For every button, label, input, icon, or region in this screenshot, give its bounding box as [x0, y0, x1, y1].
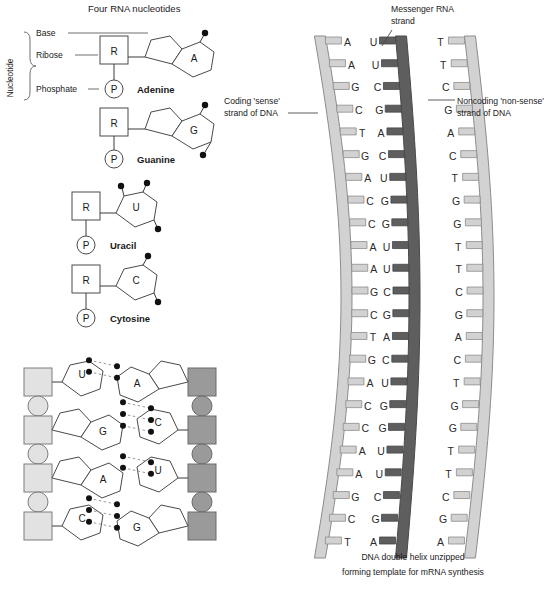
coding-strand-tooth	[346, 401, 362, 408]
helix-row: AUT	[325, 36, 464, 48]
nucleotide-name: Cytosine	[110, 313, 150, 324]
base-pair-row: AU	[24, 453, 216, 512]
phosphate-glyph: P	[83, 313, 90, 324]
substituent-dot-1	[202, 102, 208, 108]
noncoding-strand-tooth	[465, 355, 481, 362]
left-sugar-square	[24, 368, 52, 396]
noncoding-base-letter: T	[445, 468, 452, 480]
dna-helix-panel: AUTAUTGCCCGGTAAGCCAUTCGGCGGAUTAUTGCCCGGT…	[285, 0, 546, 589]
noncoding-base-letter: C	[442, 81, 450, 93]
noncoding-strand-tooth	[459, 446, 475, 453]
coding-base-letter: A	[370, 263, 377, 275]
left-sugar-square	[24, 512, 52, 540]
noncoding-strand-tooth	[467, 287, 483, 294]
mrna-base-letter: G	[371, 513, 379, 525]
coding-strand-tooth	[348, 378, 364, 385]
nucleotide-adenine: R P A Adenine	[100, 30, 214, 98]
mrna-strand-tooth	[393, 287, 409, 294]
coding-strand-tooth	[329, 514, 345, 521]
noncoding-base-letter: T	[437, 36, 444, 48]
noncoding-base-letter: C	[455, 286, 463, 298]
coding-base-letter: A	[359, 445, 366, 457]
substituent-bond	[200, 35, 204, 42]
coding-strand-tooth	[346, 173, 362, 180]
noncoding-base-letter: C	[454, 354, 462, 366]
noncoding-strand-tooth	[464, 378, 480, 385]
noncoding-strand-backbone	[464, 36, 494, 558]
noncoding-base-letter: G	[439, 513, 447, 525]
h-bond-dot-right	[148, 417, 154, 423]
base-pair-row: GC	[24, 399, 216, 464]
noncoding-strand-tooth	[454, 492, 470, 499]
left-base-letter: C	[78, 513, 85, 524]
mrna-base-letter: C	[374, 81, 382, 93]
base-pair-row: CG	[24, 495, 216, 546]
noncoding-base-letter: T	[447, 445, 454, 457]
coding-strand-tooth	[352, 287, 368, 294]
coding-strand-tooth	[340, 446, 356, 453]
legend-phosphate-label: Phosphate	[36, 84, 77, 94]
coding-strand-tooth	[352, 264, 368, 271]
h-bond-dot-left	[120, 453, 126, 459]
coding-base-letter: C	[355, 104, 363, 116]
coding-strand-tooth	[333, 492, 349, 499]
noncoding-strand-tooth	[466, 332, 482, 339]
mrna-base-letter: C	[379, 150, 387, 162]
h-bond-dot-right	[114, 375, 120, 381]
coding-strand-tooth	[329, 60, 345, 67]
mrna-strand-tooth	[393, 264, 409, 271]
noncoding-strand-tooth	[448, 37, 464, 44]
left-sugar-square	[24, 464, 52, 492]
mrna-strand-tooth	[385, 105, 401, 112]
ribose-glyph: R	[82, 275, 89, 286]
mrna-strand-tooth	[383, 492, 399, 499]
mrna-strand-tooth	[388, 151, 404, 158]
coding-base-letter: T	[344, 536, 351, 548]
coding-strand-tooth	[351, 332, 367, 339]
noncoding-strand-tooth	[456, 105, 472, 112]
nucleotide-uracil: R P U Uracil	[72, 180, 161, 254]
noncoding-base-letter: A	[437, 536, 444, 548]
noncoding-base-letter: T	[456, 263, 463, 275]
nucleotide-guanine: R P G Guanine	[100, 102, 214, 168]
h-bond-dot-left	[120, 465, 126, 471]
right-sugar-square	[188, 512, 216, 540]
coding-base-letter: A	[369, 241, 376, 253]
coding-strand-backbone	[314, 36, 352, 558]
noncoding-base-letter: A	[455, 331, 462, 343]
h-bond-dot-right	[114, 525, 120, 531]
mrna-base-letter: U	[383, 263, 391, 275]
noncoding-strand-tooth	[456, 469, 472, 476]
mrna-strand-tooth	[392, 332, 408, 339]
mrna-strand-tooth	[380, 537, 396, 544]
nucleotides-heading: Four RNA nucleotides	[88, 3, 181, 14]
noncoding-base-letter: G	[449, 422, 457, 434]
noncoding-strand-tooth	[463, 173, 479, 180]
rna-nucleotides-panel: Four RNA nucleotides Nucleotide Base Rib…	[0, 0, 300, 350]
noncoding-strand-tooth	[459, 128, 475, 135]
coding-strand-tooth	[337, 469, 353, 476]
noncoding-base-letter: C	[442, 491, 450, 503]
mrna-base-letter: C	[383, 286, 391, 298]
mrna-strand-tooth	[392, 219, 408, 226]
noncoding-base-letter: T	[455, 241, 462, 253]
coding-base-letter: A	[364, 172, 371, 184]
left-base-letter: A	[100, 474, 107, 485]
coding-strand-tooth	[350, 355, 366, 362]
right-phosphate-circle	[192, 444, 212, 464]
mrna-base-letter: U	[372, 59, 380, 71]
nucleotide-bracket-label: Nucleotide	[6, 58, 15, 97]
mrna-base-letter: U	[380, 172, 388, 184]
mrna-base-letter: G	[378, 422, 386, 434]
noncoding-base-letter: A	[447, 127, 454, 139]
right-base-letter: C	[154, 417, 161, 428]
h-bond-dot-right	[148, 459, 154, 465]
substituent-bond-2	[154, 293, 157, 300]
h-bond-dot-right	[114, 501, 120, 507]
coding-base-letter: C	[370, 309, 378, 321]
mrna-base-letter: A	[370, 536, 377, 548]
mrna-strand-tooth	[390, 401, 406, 408]
noncoding-base-letter: T	[451, 172, 458, 184]
left-base-letter: U	[78, 369, 85, 380]
h-bond-dot-left	[120, 423, 126, 429]
